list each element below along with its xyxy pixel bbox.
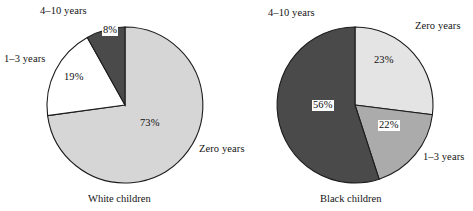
- right-value-4-10-years: 56%: [312, 100, 334, 111]
- right-slice-zero-years[interactable]: [355, 27, 433, 115]
- right-value-1-3-years: 22%: [378, 120, 400, 131]
- right-chart-caption: Black children: [320, 194, 382, 205]
- right-value-zero-years: 23%: [374, 55, 394, 66]
- right-pie-chart: [0, 0, 473, 211]
- pie-chart-figure: 4–10 years 1–3 years Zero years 8% 19% 7…: [0, 0, 473, 211]
- right-label-4-10-years: 4–10 years: [268, 8, 315, 19]
- right-pie-svg: [0, 0, 473, 211]
- right-label-1-3-years: 1–3 years: [423, 152, 464, 163]
- right-label-zero-years: Zero years: [415, 21, 461, 32]
